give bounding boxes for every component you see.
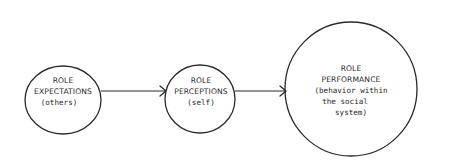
node-title-line: ROLE: [191, 76, 212, 85]
node-title-line: EXPECTATIONS: [34, 87, 92, 96]
edge-expectations-to-perceptions: [101, 86, 166, 96]
node-sub-line: (self): [187, 98, 214, 107]
node-title-line: ROLE: [53, 76, 74, 85]
node-sub-line: (behavior within: [314, 86, 387, 95]
node-role-performance: ROLE PERFORMANCE (behavior within the so…: [285, 22, 417, 156]
node-role-expectations: ROLE EXPECTATIONS (others): [25, 66, 101, 134]
node-title-line: ROLE: [341, 64, 362, 73]
node-sub-line: (others): [41, 98, 78, 107]
edge-perceptions-to-performance: [235, 86, 286, 96]
node-title-line: PERFORMANCE: [322, 75, 381, 84]
role-diagram: ROLE EXPECTATIONS (others) ROLE PERCEPTI…: [0, 0, 450, 168]
node-title-line: PERCEPTIONS: [174, 87, 227, 96]
node-sub-line: the social: [322, 97, 368, 106]
node-sub-line: system): [335, 108, 367, 117]
node-role-perceptions: ROLE PERCEPTIONS (self): [165, 65, 235, 133]
